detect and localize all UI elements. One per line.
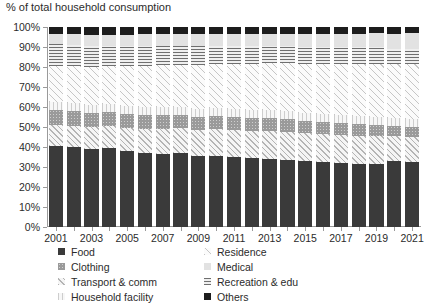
bar-segment[interactable] (316, 114, 330, 122)
bar-segment[interactable] (191, 34, 205, 46)
bar-segment[interactable] (298, 161, 312, 227)
bar-segment[interactable] (298, 34, 312, 47)
bar-segment[interactable] (209, 27, 223, 34)
bar-segment[interactable] (156, 65, 170, 107)
bar-segment[interactable] (120, 151, 134, 227)
bar-segment[interactable] (245, 158, 259, 227)
bar-segment[interactable] (280, 119, 294, 132)
bar-segment[interactable] (156, 27, 170, 34)
bar-segment[interactable] (84, 67, 98, 105)
bar-segment[interactable] (352, 27, 366, 34)
bar-segment[interactable] (67, 147, 81, 227)
bar-segment[interactable] (120, 128, 134, 151)
bar-segment[interactable] (138, 129, 152, 153)
bar-segment[interactable] (405, 49, 419, 64)
bar-segment[interactable] (49, 44, 63, 66)
bar-segment[interactable] (227, 64, 241, 109)
bar-segment[interactable] (84, 46, 98, 67)
bar-segment[interactable] (209, 108, 223, 116)
bar-segment[interactable] (369, 27, 383, 33)
bar-segment[interactable] (102, 104, 116, 112)
bar-segment[interactable] (316, 64, 330, 114)
bar-segment[interactable] (369, 125, 383, 136)
bar-segment[interactable] (49, 110, 63, 125)
bar-segment[interactable] (245, 34, 259, 46)
bar-segment[interactable] (334, 135, 348, 163)
legend-item[interactable]: Household facility (58, 291, 204, 303)
bar-segment[interactable] (369, 117, 383, 125)
bar-segment[interactable] (173, 153, 187, 227)
bar-column[interactable] (334, 27, 348, 227)
bar-segment[interactable] (173, 115, 187, 128)
bar-segment[interactable] (67, 111, 81, 126)
bar-segment[interactable] (334, 115, 348, 123)
bar-segment[interactable] (49, 125, 63, 146)
bar-segment[interactable] (405, 127, 419, 137)
bar-segment[interactable] (227, 157, 241, 227)
bar-segment[interactable] (84, 27, 98, 35)
bar-segment[interactable] (227, 130, 241, 157)
bar-segment[interactable] (209, 116, 223, 129)
bar-column[interactable] (156, 27, 170, 227)
bar-segment[interactable] (316, 47, 330, 64)
bar-segment[interactable] (156, 154, 170, 227)
legend-item[interactable]: Others (204, 291, 398, 303)
bar-segment[interactable] (209, 64, 223, 108)
bar-segment[interactable] (209, 129, 223, 156)
bar-segment[interactable] (102, 66, 116, 104)
bar-segment[interactable] (334, 123, 348, 135)
bar-segment[interactable] (227, 109, 241, 117)
bar-segment[interactable] (138, 46, 152, 66)
bar-segment[interactable] (334, 163, 348, 227)
bar-column[interactable] (227, 27, 241, 227)
bar-segment[interactable] (298, 133, 312, 161)
bar-segment[interactable] (316, 162, 330, 227)
bar-segment[interactable] (405, 119, 419, 127)
bar-segment[interactable] (352, 136, 366, 164)
bar-segment[interactable] (138, 107, 152, 115)
bar-segment[interactable] (298, 47, 312, 64)
bar-segment[interactable] (369, 64, 383, 117)
bar-segment[interactable] (262, 27, 276, 34)
bar-segment[interactable] (280, 111, 294, 119)
bar-column[interactable] (84, 27, 98, 227)
bar-segment[interactable] (138, 27, 152, 34)
bar-segment[interactable] (280, 160, 294, 227)
bar-segment[interactable] (262, 118, 276, 131)
bar-segment[interactable] (352, 34, 366, 47)
bar-segment[interactable] (191, 46, 205, 65)
bar-segment[interactable] (138, 66, 152, 107)
bar-segment[interactable] (120, 106, 134, 114)
bar-segment[interactable] (173, 65, 187, 107)
bar-segment[interactable] (262, 159, 276, 227)
bar-segment[interactable] (316, 134, 330, 162)
bar-segment[interactable] (369, 164, 383, 227)
bar-segment[interactable] (316, 122, 330, 134)
bar-segment[interactable] (191, 130, 205, 156)
bar-segment[interactable] (191, 109, 205, 117)
bar-segment[interactable] (227, 46, 241, 64)
bar-segment[interactable] (156, 34, 170, 46)
bar-column[interactable] (387, 27, 401, 227)
bar-segment[interactable] (280, 63, 294, 111)
bar-segment[interactable] (298, 113, 312, 121)
bar-segment[interactable] (298, 121, 312, 133)
bar-segment[interactable] (245, 110, 259, 118)
bar-segment[interactable] (245, 118, 259, 131)
bar-segment[interactable] (262, 131, 276, 159)
bar-segment[interactable] (334, 34, 348, 47)
bar-column[interactable] (298, 27, 312, 227)
bar-segment[interactable] (280, 27, 294, 34)
bar-segment[interactable] (298, 64, 312, 113)
bar-column[interactable] (262, 27, 276, 227)
bar-segment[interactable] (49, 102, 63, 110)
bar-segment[interactable] (298, 27, 312, 34)
bar-segment[interactable] (156, 107, 170, 115)
legend-item[interactable]: Medical (204, 261, 398, 273)
bar-column[interactable] (173, 27, 187, 227)
bar-segment[interactable] (262, 46, 276, 63)
bar-column[interactable] (316, 27, 330, 227)
bar-segment[interactable] (387, 49, 401, 64)
bar-segment[interactable] (67, 126, 81, 147)
bar-column[interactable] (209, 27, 223, 227)
